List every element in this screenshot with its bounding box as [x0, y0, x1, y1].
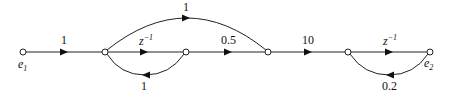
arrow-e1-n1-icon [60, 49, 68, 56]
gain-n3-n4: 10 [302, 33, 314, 47]
node-n1 [102, 49, 108, 55]
node-n4 [345, 49, 351, 55]
arrow-e2-n4-icon [386, 72, 394, 79]
node-n2 [183, 49, 189, 55]
node-n3 [265, 49, 271, 55]
node-e1 [20, 49, 26, 55]
arrow-n2-n1-icon [142, 72, 150, 79]
node-e2 [427, 49, 433, 55]
arrow-n1-n2-icon [140, 49, 148, 56]
gain-n1-n2: z−1 [138, 33, 153, 48]
gain-e1-n1: 1 [61, 33, 67, 47]
gain-n2-n3: 0.5 [221, 33, 236, 47]
branch-n1-n3-arc [107, 18, 266, 50]
gain-n2-n1: 1 [141, 79, 147, 93]
label-e1: e1 [18, 57, 27, 73]
gain-n4-e2: z−1 [382, 33, 397, 48]
arrow-n2-n3-icon [224, 49, 232, 56]
arrow-n4-e2-icon [385, 49, 393, 56]
signal-flow-graph: e1 e2 1 1 z−1 1 0.5 10 z−1 0.2 [0, 0, 453, 98]
branch-n2-n1-arc [107, 54, 184, 75]
gain-e2-n4: 0.2 [382, 79, 397, 93]
label-e2: e2 [424, 56, 433, 72]
arrow-n3-n4-icon [304, 49, 312, 56]
branch-e2-n4-arc [350, 54, 428, 75]
arrow-top-arc-icon [182, 15, 190, 22]
gain-top-arc: 1 [183, 0, 189, 14]
